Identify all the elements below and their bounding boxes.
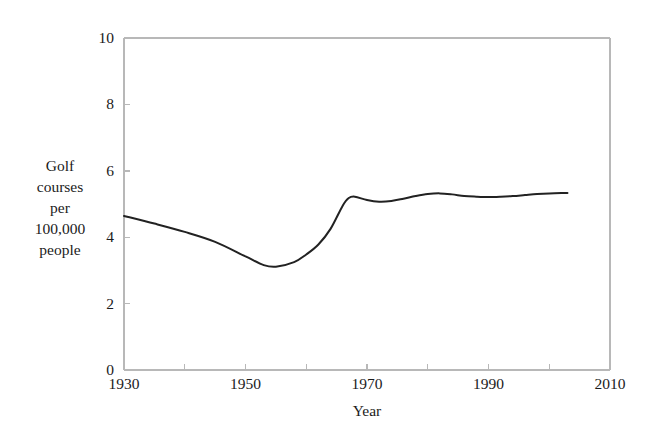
data-series-line — [124, 193, 567, 267]
axis-ticks — [124, 104, 549, 370]
golf-courses-line-chart: Golf courses per 100,000 people Year 024… — [0, 0, 661, 439]
plot-area — [0, 0, 661, 439]
plot-frame — [124, 38, 610, 370]
